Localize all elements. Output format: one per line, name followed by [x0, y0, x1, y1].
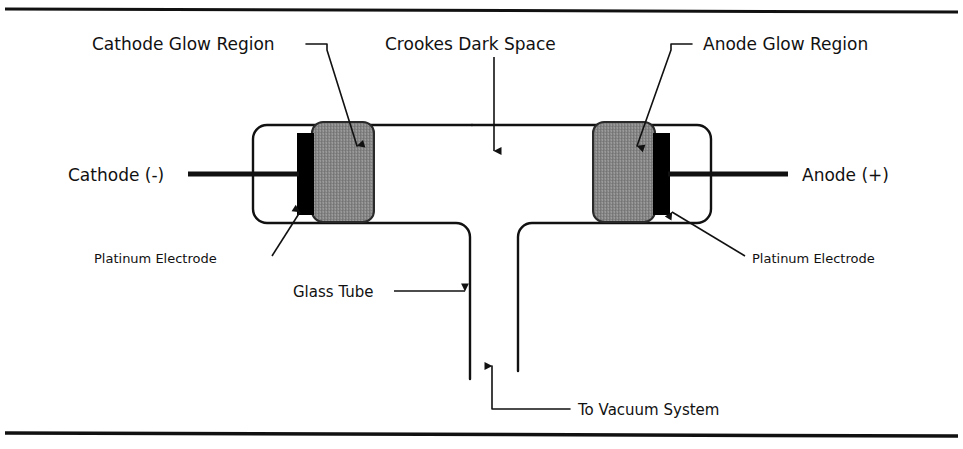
top-rule [5, 9, 958, 12]
label-cathode: Cathode (-) [68, 165, 164, 185]
anode-glow-region [593, 122, 655, 222]
label-cathode-glow-region: Cathode Glow Region [92, 34, 275, 54]
label-platinum-electrode-right: Platinum Electrode [752, 251, 875, 266]
label-platinum-electrode-left: Platinum Electrode [94, 251, 217, 266]
tube-outline-right [472, 125, 711, 371]
label-anode: Anode (+) [802, 165, 889, 185]
label-to-vacuum-system: To Vacuum System [577, 401, 719, 419]
platinum-electrode-left-leader [272, 212, 300, 256]
vacuum-system-leader [492, 366, 570, 409]
cathode-glow-region [312, 122, 374, 222]
diagram-canvas: Cathode Glow Region Crookes Dark Space A… [0, 0, 963, 449]
label-crookes-dark-space: Crookes Dark Space [385, 34, 556, 54]
cathode-platinum-electrode [297, 133, 314, 215]
label-glass-tube: Glass Tube [293, 283, 374, 301]
bottom-rule [5, 433, 958, 436]
label-anode-glow-region: Anode Glow Region [703, 34, 868, 54]
anode-platinum-electrode [653, 133, 670, 215]
crookes-tube-diagram: Cathode Glow Region Crookes Dark Space A… [0, 0, 963, 449]
